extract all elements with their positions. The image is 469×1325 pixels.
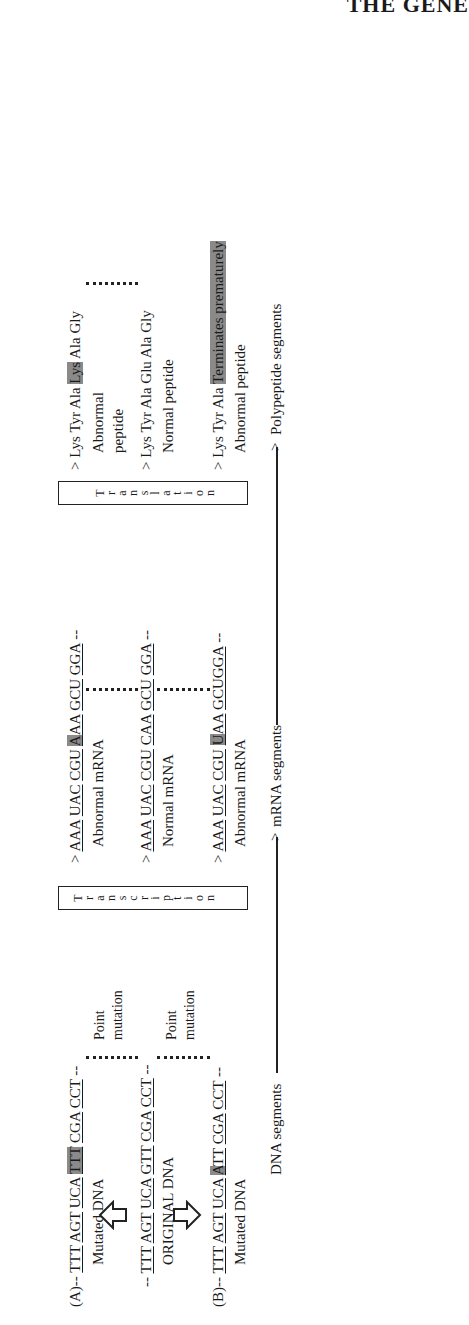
mutated-amino-acid: Lys bbox=[67, 362, 83, 384]
mutated-base: A bbox=[67, 735, 83, 746]
original-dna: -- TTT AGT UCA GTT CGA CCT -- bbox=[138, 1065, 154, 1287]
mutation-link-a-original-peptide bbox=[86, 282, 138, 285]
translation-label: Translation bbox=[95, 482, 216, 504]
polypeptide-segments-label: Polypeptide segments bbox=[268, 304, 284, 435]
arrow-right-icon: > bbox=[138, 462, 154, 470]
original-mrna-caption: Normal mRNA bbox=[160, 754, 176, 847]
point-mutation-label-1a: Point bbox=[92, 1010, 107, 1040]
block-arrow-down-icon bbox=[172, 1200, 202, 1230]
arrow-right-icon: > bbox=[67, 462, 83, 470]
point-mutation-label-2a: Point bbox=[164, 1010, 179, 1040]
transcription-label: Transcription bbox=[73, 887, 216, 909]
transcription-box: Transcription bbox=[58, 886, 248, 910]
arrow-right-icon: > bbox=[267, 833, 283, 841]
row-b-label: (B) bbox=[210, 1287, 226, 1307]
point-mutation-label-1b: mutation bbox=[110, 990, 125, 1040]
mutation-diagram: (A)-- TTT AGT UCA TTT CGA CCT -- Mutated… bbox=[0, 0, 469, 1325]
row-a-peptide-caption-2: peptide bbox=[110, 409, 126, 453]
original-peptide-caption: Normal peptide bbox=[160, 359, 176, 453]
block-arrow-up-icon bbox=[98, 1200, 128, 1230]
arrow-right-icon: > bbox=[138, 855, 154, 863]
flow-line-1 bbox=[276, 837, 278, 1073]
row-a-mrna-caption: Abnormal mRNA bbox=[90, 739, 106, 847]
translation-box: Translation bbox=[58, 481, 248, 505]
arrow-right-icon: > bbox=[210, 462, 226, 470]
arrow-right-icon: > bbox=[210, 855, 226, 863]
arrow-right-icon: > bbox=[67, 855, 83, 863]
original-mrna: > AAA UAC CGU CAA GCU GGA -- bbox=[138, 630, 154, 863]
row-a-dna: (A)-- TTT AGT UCA TTT CGA CCT -- bbox=[67, 1066, 83, 1307]
stop-terminator-badge: Terminates prematurely bbox=[210, 241, 226, 384]
mutation-link-a-original-mrna bbox=[86, 688, 138, 691]
row-a-peptide: > Lys Tyr Ala Lys Ala Gly bbox=[67, 311, 83, 470]
point-mutation-label-2b: mutation bbox=[182, 990, 197, 1040]
mutation-link-original-b-mrna bbox=[157, 688, 210, 691]
row-a-mrna: > AAA UAC CGU AAA GCU GGA -- bbox=[67, 630, 83, 863]
dna-segments-label: DNA segments bbox=[268, 1084, 284, 1175]
row-a-peptide-caption-1: Abnormal bbox=[90, 392, 106, 453]
row-b-dna-caption: Mutated DNA bbox=[232, 1179, 248, 1265]
mutated-codon: TTT bbox=[67, 1147, 83, 1174]
row-b-mrna-caption: Abnormal mRNA bbox=[232, 739, 248, 847]
arrow-right-icon: > bbox=[267, 443, 283, 451]
row-b-peptide: > Lys Tyr Ala Terminates prematurely bbox=[210, 241, 226, 470]
mutation-link-a-original-dna bbox=[86, 1056, 138, 1059]
mutated-base: U bbox=[210, 734, 226, 745]
flow-line-2 bbox=[276, 447, 278, 725]
row-b-peptide-caption: Abnormal peptide bbox=[232, 344, 248, 453]
row-a-label: (A) bbox=[67, 1286, 83, 1307]
mutated-base: A bbox=[210, 1166, 226, 1175]
row-b-mrna: > AAA UAC CGU UAA GCUGGA -- bbox=[210, 633, 226, 863]
row-b-dna: (B)-- TTT AGT UCA ATT CGA CCT -- bbox=[210, 1067, 226, 1307]
mrna-segments-label: mRNA segments bbox=[268, 725, 284, 827]
mutation-link-original-b-dna bbox=[157, 1056, 210, 1059]
original-peptide: > Lys Tyr Ala Glu Ala Gly bbox=[138, 310, 154, 470]
